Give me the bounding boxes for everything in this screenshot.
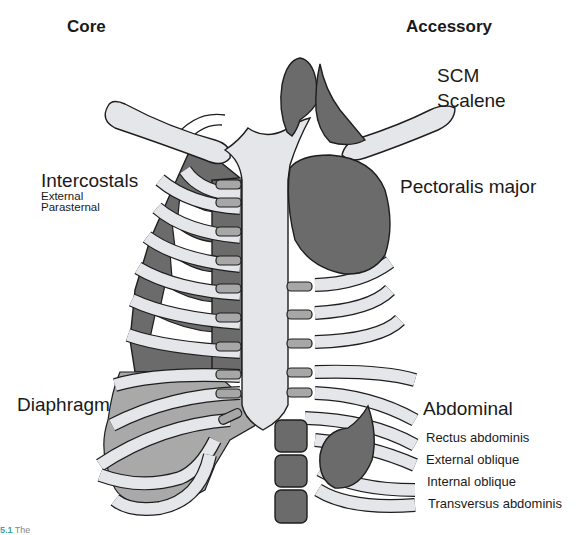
label-external-oblique: External oblique — [426, 453, 519, 466]
label-diaphragm: Diaphragm — [17, 395, 110, 414]
label-scm: SCM — [437, 66, 479, 85]
heading-accessory: Accessory — [406, 18, 492, 35]
label-abdominal: Abdominal — [423, 399, 513, 418]
left-clavicle — [105, 101, 230, 163]
label-rectus-abdominis: Rectus abdominis — [426, 431, 529, 444]
caption-text: The — [15, 525, 31, 535]
pectoralis-major-muscle — [288, 155, 390, 274]
right-costal-cartilages — [287, 282, 312, 397]
label-internal-oblique: Internal oblique — [427, 475, 516, 488]
caption-number: 5.1 — [0, 525, 13, 535]
label-pectoralis-major: Pectoralis major — [400, 177, 536, 196]
scalene-muscle — [316, 64, 365, 145]
figure-caption: 5.1 The — [0, 526, 30, 535]
label-transversus-abdominis: Transversus abdominis — [428, 497, 562, 510]
label-intercostals: Intercostals — [41, 171, 138, 190]
heading-core: Core — [67, 18, 106, 35]
rectus-abdominis-muscle — [275, 420, 307, 523]
label-scalene: Scalene — [437, 91, 506, 110]
label-intercostals-parasternal: Parasternal — [41, 201, 100, 213]
